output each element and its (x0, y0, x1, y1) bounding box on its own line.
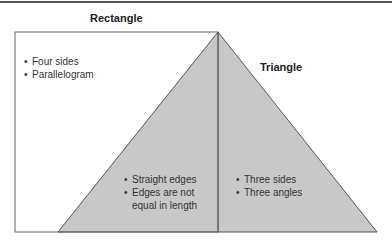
list-item: Four sides (24, 55, 94, 68)
list-item: Three sides (236, 173, 302, 186)
list-item: Straight edges (124, 173, 197, 186)
overlap-list: Straight edges Edges are not equal in le… (124, 173, 197, 212)
list-item: Parallelogram (24, 68, 94, 81)
list-item-continuation: equal in length (124, 199, 197, 212)
rectangle-list: Four sides Parallelogram (24, 55, 94, 81)
list-item: Edges are not (124, 186, 197, 199)
triangle-title: Triangle (260, 61, 302, 73)
triangle-list: Three sides Three angles (236, 173, 302, 199)
rectangle-title: Rectangle (90, 12, 143, 24)
list-item: Three angles (236, 186, 302, 199)
